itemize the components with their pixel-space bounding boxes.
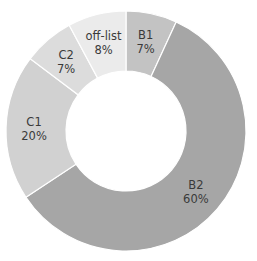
slice-label-c2-pct: 7% [57,62,75,76]
slice-label-offlist-pct: 8% [94,43,112,57]
slice-label-b2-pct: 60% [183,192,209,206]
donut-chart: B1 7% B2 60% C1 20% C2 7% off-list 8% [0,0,257,261]
slice-label-b1-pct: 7% [137,42,155,56]
slice-label-c1-pct: 20% [21,129,47,143]
slice-label-b2-name: B2 [188,178,203,192]
donut-chart-svg: B1 7% B2 60% C1 20% C2 7% off-list 8% [0,0,257,261]
slice-label-b1-name: B1 [138,28,153,42]
slice-label-offlist-name: off-list [86,29,122,43]
slice-label-c1-name: C1 [26,115,41,129]
slice-label-c2-name: C2 [58,48,73,62]
